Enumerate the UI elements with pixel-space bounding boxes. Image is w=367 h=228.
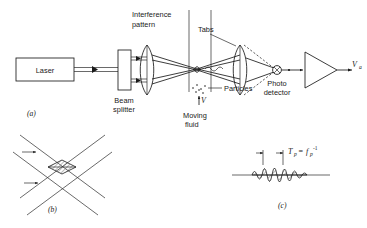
signal-node-dot [288, 69, 290, 71]
equals-sign: = [298, 147, 303, 156]
panel-b: (b) [13, 135, 112, 215]
panel-c-caption: (c) [278, 201, 287, 210]
frequency-exponent: -1 [313, 145, 318, 151]
period-symbol: T [288, 147, 293, 156]
interference-label-line1: Interference [132, 10, 171, 19]
converge-beam-upper-a [152, 55, 197, 69]
period-equation: T p = f p -1 [288, 145, 318, 157]
output-subscript: a [359, 64, 362, 70]
frequency-subscript: p [309, 151, 313, 157]
moving-fluid-label-line1: Moving [183, 111, 207, 120]
period-subscript: p [293, 151, 297, 157]
laser-label: Laser [36, 66, 55, 75]
converge-beam-upper-b [152, 60, 197, 70]
detector-cone-upper [244, 45, 275, 69]
beam-splitter-label-line2: splitter [113, 105, 135, 114]
panel-a-caption: (a) [27, 109, 36, 118]
amplifier-triangle [305, 52, 337, 88]
panel-c: T p = f p -1 (c) [232, 145, 330, 210]
focus-ray-upper [246, 58, 274, 68]
beam-splitter-label-line1: Beam [114, 96, 133, 105]
lens-label: Tabs [198, 25, 214, 34]
lens-leader-line [210, 34, 236, 46]
converge-beam-lower-b [152, 69, 197, 79]
figure-canvas: Laser Beam splitter Interference pattern [0, 0, 367, 228]
photo-detector-label-line2: detector [264, 88, 291, 97]
panel-a: Laser Beam splitter Interference pattern [16, 10, 362, 129]
panel-b-caption: (b) [48, 205, 57, 214]
beam-direction-arrow [92, 66, 98, 73]
beam-splitter-block [118, 50, 131, 90]
photo-detector-symbol [273, 66, 282, 75]
converge-beam-lower-a [152, 70, 197, 84]
output-symbol: V [352, 60, 358, 69]
particles-cluster [192, 84, 206, 94]
ldv-diagram: Laser Beam splitter Interference pattern [0, 0, 367, 228]
doppler-burst-signal [252, 168, 307, 182]
moving-fluid-label-line2: fluid [185, 120, 199, 129]
velocity-symbol: V [201, 96, 207, 105]
interference-label-line2: pattern [132, 20, 155, 29]
photo-detector-label-line1: Photo [267, 79, 286, 88]
